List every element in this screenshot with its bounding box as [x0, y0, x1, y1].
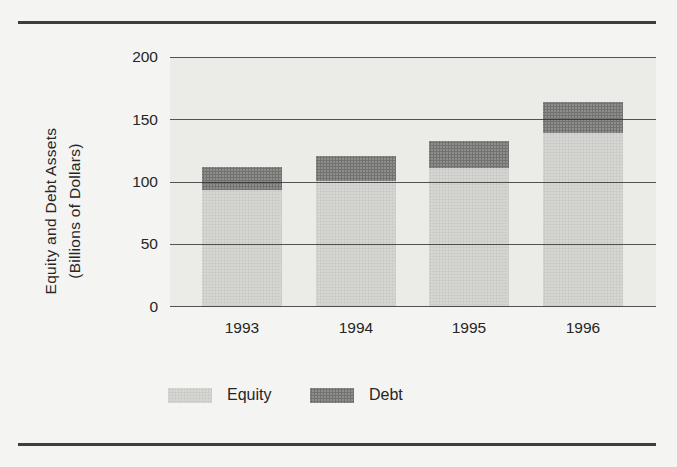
y-tick-50: 50: [80, 234, 158, 254]
y-axis-label: Equity and Debt Assets (Billions of Doll…: [39, 128, 87, 295]
bottom-rule: [18, 443, 656, 446]
y-tick-0: 0: [80, 297, 158, 317]
gridline-200: [170, 57, 656, 58]
x-tick-label-1996: 1996: [543, 319, 623, 337]
gridline-50: [170, 244, 656, 245]
y-tick-200: 200: [80, 47, 158, 67]
bar-1996-equity: [543, 133, 623, 307]
x-tick-label-1994: 1994: [316, 319, 396, 337]
top-rule: [18, 21, 656, 24]
legend-swatch-equity: [168, 388, 212, 403]
bar-1995-debt: [429, 141, 509, 169]
bar-1994-debt: [316, 156, 396, 181]
bar-1993-debt: [202, 167, 282, 190]
y-tick-100: 100: [80, 172, 158, 192]
y-axis-label-line2: (Billions of Dollars): [63, 128, 87, 295]
bar-1996-debt: [543, 102, 623, 133]
y-tick-150: 150: [80, 110, 158, 130]
gridline-0: [170, 306, 656, 307]
x-tick-label-1993: 1993: [202, 319, 282, 337]
gridline-100: [170, 182, 656, 183]
bar-1993-equity: [202, 190, 282, 308]
plot-area: [170, 57, 656, 307]
legend-item-debt: Debt: [310, 383, 403, 407]
legend-swatch-debt: [310, 388, 354, 403]
legend-label-debt: Debt: [369, 386, 403, 404]
bar-1995-equity: [429, 168, 509, 307]
legend-label-equity: Equity: [227, 386, 271, 404]
legend-item-equity: Equity: [168, 383, 271, 407]
figure-stacked-bar-chart: Equity and Debt Assets (Billions of Doll…: [0, 0, 677, 467]
x-tick-label-1995: 1995: [429, 319, 509, 337]
gridline-150: [170, 119, 656, 120]
y-axis-label-line1: Equity and Debt Assets: [39, 128, 63, 295]
